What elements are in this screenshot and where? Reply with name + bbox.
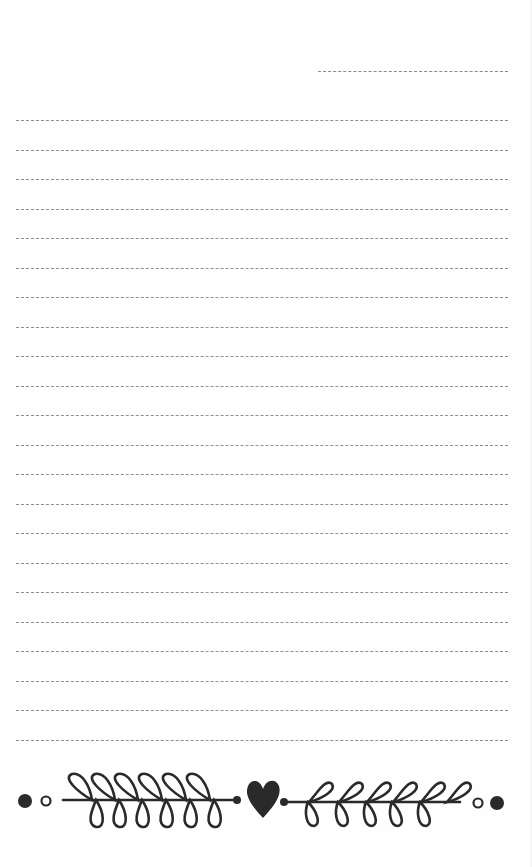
filled-dot-icon bbox=[18, 794, 32, 808]
writing-line[interactable] bbox=[16, 268, 508, 269]
right-laurel-branch-icon bbox=[280, 783, 471, 826]
writing-line[interactable] bbox=[16, 474, 508, 475]
left-laurel-branch-icon bbox=[63, 774, 241, 827]
writing-line[interactable] bbox=[16, 179, 508, 180]
notepad-page bbox=[0, 0, 532, 867]
writing-line[interactable] bbox=[16, 740, 508, 741]
hollow-dot-icon bbox=[42, 797, 51, 806]
footer-ornament bbox=[0, 768, 532, 838]
writing-line[interactable] bbox=[16, 120, 508, 121]
writing-line[interactable] bbox=[16, 563, 508, 564]
writing-line[interactable] bbox=[16, 327, 508, 328]
writing-line[interactable] bbox=[16, 238, 508, 239]
writing-line[interactable] bbox=[16, 386, 508, 387]
writing-line[interactable] bbox=[16, 622, 508, 623]
date-line[interactable] bbox=[318, 71, 508, 72]
writing-line[interactable] bbox=[16, 592, 508, 593]
heart-icon bbox=[247, 781, 280, 818]
writing-line[interactable] bbox=[16, 150, 508, 151]
writing-line[interactable] bbox=[16, 504, 508, 505]
writing-line[interactable] bbox=[16, 415, 508, 416]
writing-line[interactable] bbox=[16, 651, 508, 652]
writing-line[interactable] bbox=[16, 681, 508, 682]
writing-line[interactable] bbox=[16, 710, 508, 711]
filled-dot-icon bbox=[490, 796, 504, 810]
writing-line[interactable] bbox=[16, 209, 508, 210]
writing-line[interactable] bbox=[16, 356, 508, 357]
writing-line[interactable] bbox=[16, 297, 508, 298]
writing-line[interactable] bbox=[16, 533, 508, 534]
hollow-dot-icon bbox=[474, 799, 483, 808]
writing-line[interactable] bbox=[16, 445, 508, 446]
